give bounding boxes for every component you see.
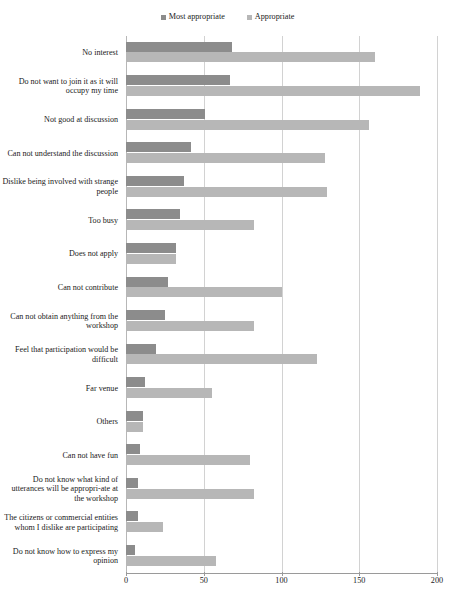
- bar-most-appropriate: [126, 511, 138, 521]
- x-tick-mark-100: [282, 572, 283, 576]
- bar-most-appropriate: [126, 310, 165, 320]
- bar-group: [126, 472, 437, 506]
- bar-most-appropriate: [126, 75, 230, 85]
- bar-most-appropriate: [126, 411, 143, 421]
- x-tick-mark-150: [359, 572, 360, 576]
- legend-swatch-icon: [247, 15, 252, 20]
- category-label: Others: [0, 405, 122, 439]
- category-label-text: Do not want to join it as it will occupy…: [0, 77, 118, 96]
- bar-most-appropriate: [126, 142, 191, 152]
- category-label: Can not contribute: [0, 271, 122, 305]
- bar-appropriate: [126, 120, 369, 130]
- bar-most-appropriate: [126, 377, 145, 387]
- bar-group: [126, 271, 437, 305]
- bar-appropriate: [126, 489, 254, 499]
- category-label-text: Can not obtain anything from the worksho…: [0, 312, 118, 331]
- x-tick-label-100: 100: [275, 576, 287, 585]
- bar-group: [126, 70, 437, 104]
- bar-group: [126, 439, 437, 473]
- bar-most-appropriate: [126, 243, 176, 253]
- category-label-text: No interest: [82, 48, 118, 58]
- bar-appropriate: [126, 388, 212, 398]
- x-tick-label-0: 0: [124, 576, 128, 585]
- bar-group: [126, 405, 437, 439]
- category-label-text: Do not know what kind of utterances will…: [0, 475, 118, 504]
- legend-label: Appropriate: [255, 13, 295, 21]
- category-label: Not good at discussion: [0, 103, 122, 137]
- category-label: Do not know what kind of utterances will…: [0, 472, 122, 506]
- x-tick-mark-0: [126, 572, 127, 576]
- plot-area: [126, 36, 437, 573]
- bar-group: [126, 170, 437, 204]
- bar-group: [126, 204, 437, 238]
- legend-entry-2: Appropriate: [247, 13, 295, 21]
- bar-appropriate: [126, 52, 375, 62]
- category-label: Too busy: [0, 204, 122, 238]
- bar-most-appropriate: [126, 209, 180, 219]
- x-tick-label-150: 150: [353, 576, 365, 585]
- bar-appropriate: [126, 522, 163, 532]
- bar-group: [126, 338, 437, 372]
- bar-appropriate: [126, 422, 143, 432]
- bar-most-appropriate: [126, 176, 184, 186]
- category-label-text: Do not know how to express my opinion: [0, 547, 118, 566]
- bar-appropriate: [126, 321, 254, 331]
- bar-appropriate: [126, 153, 325, 163]
- bar-appropriate: [126, 287, 282, 297]
- category-label-text: Does not apply: [69, 249, 118, 259]
- category-label: Can not obtain anything from the worksho…: [0, 305, 122, 339]
- gridline-200: [437, 36, 438, 573]
- category-label-text: Dislike being involved with strange peop…: [0, 177, 118, 196]
- bar-most-appropriate: [126, 42, 232, 52]
- category-label: Do not want to join it as it will occupy…: [0, 70, 122, 104]
- bar-most-appropriate: [126, 478, 138, 488]
- bar-appropriate: [126, 354, 317, 364]
- bar-chart: Most appropriateAppropriate No interestD…: [0, 0, 455, 605]
- bar-appropriate: [126, 556, 216, 566]
- bar-group: [126, 539, 437, 573]
- bar-most-appropriate: [126, 344, 156, 354]
- bar-group: [126, 372, 437, 406]
- bar-group: [126, 36, 437, 70]
- bar-appropriate: [126, 86, 420, 96]
- x-tick-label-50: 50: [200, 576, 208, 585]
- bar-group: [126, 506, 437, 540]
- bar-appropriate: [126, 254, 176, 264]
- category-label: Dislike being involved with strange peop…: [0, 170, 122, 204]
- category-label: Do not know how to express my opinion: [0, 539, 122, 573]
- category-label-text: Feel that participation would be difficu…: [0, 345, 118, 364]
- category-label: Does not apply: [0, 237, 122, 271]
- x-tick-label-200: 200: [431, 576, 443, 585]
- bar-group: [126, 103, 437, 137]
- legend-label: Most appropriate: [169, 13, 225, 21]
- bar-most-appropriate: [126, 545, 135, 555]
- bar-group: [126, 305, 437, 339]
- category-axis-labels: No interestDo not want to join it as it …: [0, 36, 122, 573]
- bar-most-appropriate: [126, 109, 205, 119]
- value-axis-tick-labels: 050100150200: [126, 576, 437, 590]
- bar-appropriate: [126, 187, 327, 197]
- bar-most-appropriate: [126, 444, 140, 454]
- bar-appropriate: [126, 455, 250, 465]
- bar-group: [126, 137, 437, 171]
- category-label: No interest: [0, 36, 122, 70]
- x-tick-mark-200: [437, 572, 438, 576]
- bar-appropriate: [126, 220, 254, 230]
- category-label-text: Far venue: [86, 384, 118, 394]
- legend-entry-1: Most appropriate: [161, 13, 225, 21]
- chart-legend: Most appropriateAppropriate: [0, 13, 455, 21]
- category-label-text: Others: [96, 417, 118, 427]
- category-label-text: Can not contribute: [58, 283, 118, 293]
- category-label-text: The citizens or commercial entities whom…: [0, 513, 118, 532]
- bar-group: [126, 237, 437, 271]
- category-label-text: Can not understand the discussion: [7, 149, 118, 159]
- bar-most-appropriate: [126, 277, 168, 287]
- category-label: The citizens or commercial entities whom…: [0, 506, 122, 540]
- category-label-text: Can not have fun: [62, 451, 118, 461]
- category-label: Feel that participation would be difficu…: [0, 338, 122, 372]
- category-label-text: Not good at discussion: [44, 115, 118, 125]
- category-label-text: Too busy: [88, 216, 118, 226]
- category-label: Can not have fun: [0, 439, 122, 473]
- x-tick-mark-50: [204, 572, 205, 576]
- legend-swatch-icon: [161, 15, 166, 20]
